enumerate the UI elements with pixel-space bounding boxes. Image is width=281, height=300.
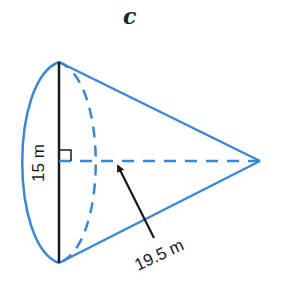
right-angle-marker bbox=[59, 150, 71, 161]
slant-height-arrow bbox=[118, 166, 154, 238]
slant-height-label: 19.5 m bbox=[132, 235, 187, 274]
diameter-label: 15 m bbox=[29, 144, 48, 182]
cone-diagram: c 15 m 19.5 m bbox=[0, 0, 281, 300]
figure-label: c bbox=[123, 3, 137, 29]
cone-base-back-arc bbox=[59, 62, 96, 263]
